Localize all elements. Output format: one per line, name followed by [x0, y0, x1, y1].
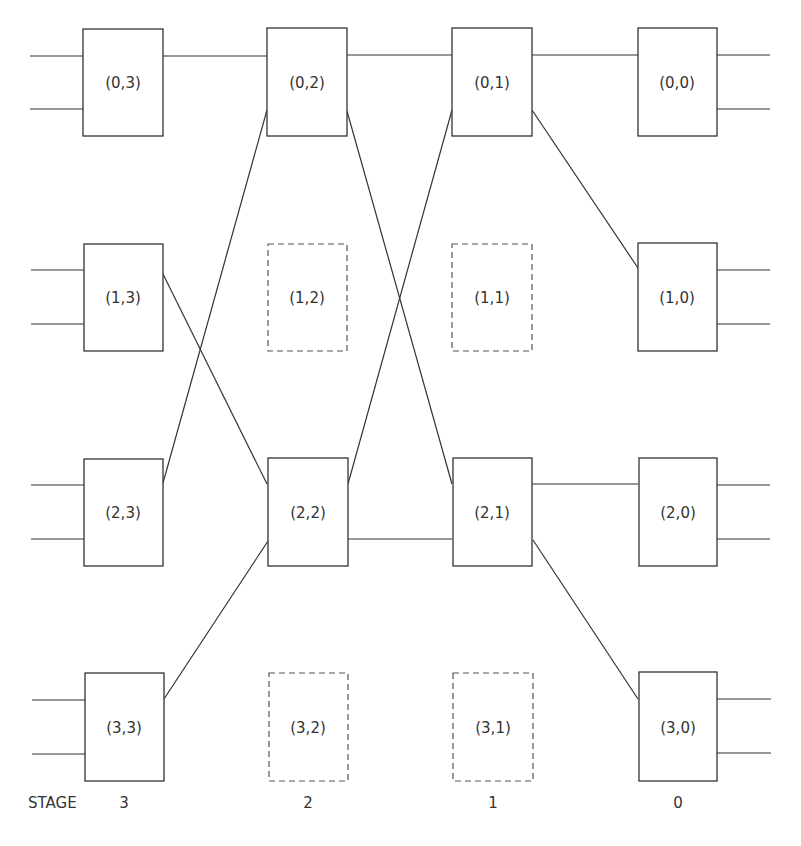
node-2-1: (2,1)	[453, 458, 532, 566]
input-wires	[30, 56, 85, 754]
stage-0-label: 0	[673, 794, 683, 812]
node-0-0: (0,0)	[638, 28, 717, 136]
edge-23-02	[163, 110, 267, 483]
node-1-2-inactive: (1,2)	[268, 244, 347, 351]
node-2-0: (2,0)	[639, 458, 717, 566]
node-label: (2,3)	[105, 504, 141, 522]
node-3-2-inactive: (3,2)	[269, 673, 348, 781]
stage-2-label: 2	[303, 794, 313, 812]
node-label: (0,2)	[289, 74, 325, 92]
node-label: (0,3)	[105, 74, 141, 92]
stage-prefix-label: STAGE	[28, 794, 77, 812]
node-3-1-inactive: (3,1)	[453, 673, 533, 781]
stage-3-label: 3	[119, 794, 129, 812]
network-diagram: (0,3) (0,2) (0,1) (0,0) (1,3) (1,2) (1,1…	[0, 0, 801, 846]
output-wires	[716, 55, 771, 753]
edge-21-30	[533, 540, 638, 699]
node-label: (1,2)	[289, 289, 325, 307]
node-label: (1,0)	[659, 289, 695, 307]
interconnect-edges	[162, 55, 638, 699]
node-label: (3,2)	[290, 719, 326, 737]
node-0-3: (0,3)	[83, 29, 163, 136]
node-0-2: (0,2)	[267, 28, 347, 136]
node-label: (1,3)	[105, 289, 141, 307]
node-label: (0,0)	[659, 74, 695, 92]
edge-13-22	[162, 272, 267, 484]
node-2-3: (2,3)	[84, 459, 163, 566]
node-label: (2,2)	[290, 504, 326, 522]
node-0-1: (0,1)	[452, 28, 532, 136]
node-label: (3,3)	[106, 719, 142, 737]
node-3-3: (3,3)	[85, 673, 164, 781]
stage-labels: STAGE 3 2 1 0	[28, 794, 683, 812]
node-1-1-inactive: (1,1)	[452, 244, 532, 351]
node-label: (3,0)	[660, 719, 696, 737]
node-label: (3,1)	[475, 719, 511, 737]
node-label: (2,0)	[660, 504, 696, 522]
edge-01-10	[532, 110, 638, 268]
node-1-0: (1,0)	[638, 243, 717, 351]
node-2-2: (2,2)	[268, 458, 348, 566]
node-label: (1,1)	[474, 289, 510, 307]
node-label: (0,1)	[474, 74, 510, 92]
node-label: (2,1)	[474, 504, 510, 522]
stage-1-label: 1	[488, 794, 498, 812]
edge-33-22	[164, 541, 268, 699]
node-3-0: (3,0)	[639, 672, 717, 781]
node-1-3: (1,3)	[84, 244, 163, 351]
